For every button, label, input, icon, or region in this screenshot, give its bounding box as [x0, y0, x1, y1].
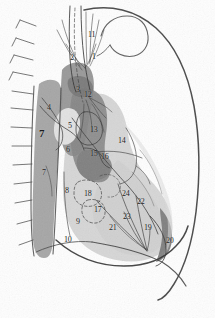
spur-13	[19, 240, 33, 245]
callout-label-12: 12	[84, 91, 92, 99]
callout-label-4: 4	[47, 104, 51, 112]
aortic-arch-loop	[101, 16, 148, 56]
vessel-strand-e	[86, 12, 87, 64]
aortic-arch-inner-line	[97, 45, 110, 56]
callout-label-24: 24	[122, 190, 130, 198]
callout-label-14: 14	[118, 137, 126, 145]
callout-label-7a: 7	[39, 128, 44, 139]
callout-label-10: 10	[64, 236, 72, 244]
callout-label-16: 16	[101, 153, 109, 161]
callout-label-21: 21	[109, 224, 117, 232]
spur-5	[12, 91, 33, 94]
callout-label-15: 15	[90, 150, 98, 158]
spur-7	[11, 127, 32, 128]
spur-11	[15, 200, 32, 203]
spur-1	[16, 20, 36, 28]
callout-label-6: 6	[66, 146, 70, 154]
callout-label-23: 23	[123, 213, 131, 221]
callout-label-8: 8	[65, 187, 69, 195]
callout-label-17: 17	[94, 206, 102, 214]
callout-label-1: 1	[92, 53, 96, 61]
spur-3	[10, 55, 33, 63]
spur-4	[9, 72, 33, 80]
callout-label-11: 11	[88, 31, 95, 39]
callout-label-7b: 7	[42, 169, 46, 177]
spur-2	[12, 38, 34, 46]
callout-label-5: 5	[68, 122, 72, 130]
spur-12	[17, 220, 32, 224]
callout-label-2: 2	[70, 54, 74, 62]
callout-label-9: 9	[76, 218, 80, 226]
callout-label-22: 22	[137, 198, 145, 206]
spur-10	[14, 182, 32, 184]
anatomical-figure: 1234567789101112131415161718192021222324	[0, 0, 215, 318]
spur-9	[13, 164, 32, 165]
spur-6	[11, 108, 33, 110]
callout-label-3: 3	[76, 86, 80, 94]
callout-label-13: 13	[90, 126, 98, 134]
callout-label-20: 20	[166, 237, 174, 245]
callout-label-19: 19	[144, 224, 152, 232]
callout-label-18: 18	[84, 190, 92, 198]
